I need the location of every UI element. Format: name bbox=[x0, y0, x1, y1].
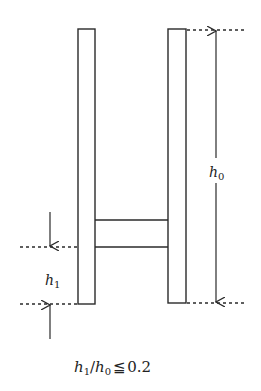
h1-label: h1 bbox=[45, 272, 60, 290]
left-pillar bbox=[78, 29, 95, 304]
right-pillar bbox=[168, 29, 186, 303]
ratio-formula: h1/h0≦0.2 bbox=[74, 358, 151, 377]
frame-diagram: h0 h1 h1/h0≦0.2 bbox=[0, 0, 261, 391]
h0-label: h0 bbox=[209, 164, 224, 182]
